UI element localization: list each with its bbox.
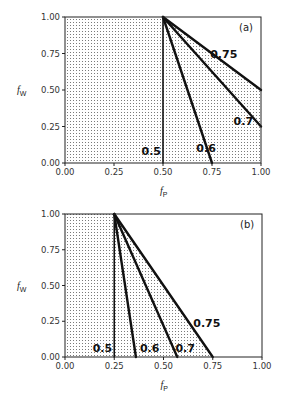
figure: 0.000.250.500.751.000.000.250.500.751.00… xyxy=(0,0,285,408)
panel-b: 0.000.250.500.751.000.000.250.500.751.00… xyxy=(17,209,271,392)
x-tick-label: 0.00 xyxy=(56,361,75,371)
panel-a: 0.000.250.500.751.000.000.250.500.751.00… xyxy=(17,12,270,198)
x-tick-label: 0.75 xyxy=(203,167,222,177)
y-axis-label: fW xyxy=(17,280,27,293)
line-label-0-75: 0.75 xyxy=(193,317,220,330)
x-axis-label: fP xyxy=(161,379,169,392)
line-label-0-7: 0.7 xyxy=(175,342,195,355)
y-tick-label: 0.00 xyxy=(41,158,60,168)
x-axis-label: fP xyxy=(160,185,168,198)
line-label-0-75: 0.75 xyxy=(210,48,237,61)
line-label-0-6: 0.6 xyxy=(196,142,216,155)
y-tick-label: 0.25 xyxy=(41,316,60,326)
x-tick-label: 0.25 xyxy=(105,361,124,371)
shaded-region xyxy=(65,214,213,357)
y-tick-label: 0.50 xyxy=(41,85,60,95)
panel-tag: (a) xyxy=(239,22,253,33)
line-label-0-6: 0.6 xyxy=(140,342,160,355)
y-tick-label: 1.00 xyxy=(41,12,60,22)
x-tick-label: 1.00 xyxy=(253,361,272,371)
x-tick-label: 0.00 xyxy=(56,167,75,177)
x-tick-label: 1.00 xyxy=(252,167,271,177)
line-label-0-7: 0.7 xyxy=(234,115,254,128)
panel-tag: (b) xyxy=(240,219,254,230)
y-tick-label: 0.50 xyxy=(41,281,60,291)
y-axis-label: fW xyxy=(17,84,27,97)
x-tick-label: 0.75 xyxy=(203,361,222,371)
line-label-0-5: 0.5 xyxy=(141,145,161,158)
x-tick-label: 0.50 xyxy=(154,361,173,371)
y-tick-label: 0.75 xyxy=(41,245,60,255)
y-tick-label: 1.00 xyxy=(41,209,60,219)
y-tick-label: 0.75 xyxy=(41,49,60,59)
line-label-0-5: 0.5 xyxy=(93,342,113,355)
y-tick-label: 0.00 xyxy=(41,352,60,362)
x-tick-label: 0.25 xyxy=(105,167,124,177)
y-tick-label: 0.25 xyxy=(41,122,60,132)
x-tick-label: 0.50 xyxy=(154,167,173,177)
